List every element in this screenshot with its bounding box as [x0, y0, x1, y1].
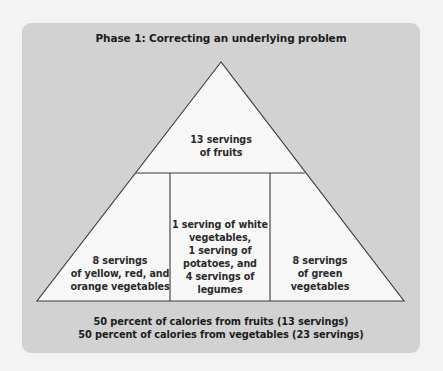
section-yellow-red-orange-vegetables: 8 servings of yellow, red, and orange ve… — [70, 254, 170, 293]
label-line: of green — [270, 267, 370, 280]
label-line: 1 serving of white — [170, 218, 270, 231]
section-green-vegetables: 8 servings of green vegetables — [270, 254, 370, 293]
label-line: vegetables — [270, 280, 370, 293]
label-line: of yellow, red, and — [70, 267, 170, 280]
label-line: 13 servings — [150, 133, 292, 146]
label-line: 1 serving of — [170, 244, 270, 257]
label-line: legumes — [170, 283, 270, 296]
label-line: vegetables, — [170, 231, 270, 244]
section-fruits: 13 servings of fruits — [150, 133, 292, 159]
label-line: potatoes, and — [170, 257, 270, 270]
label-line: 4 servings of — [170, 270, 270, 283]
summary-vegetables: 50 percent of calories from vegetables (… — [22, 328, 420, 341]
label-line: of fruits — [150, 146, 292, 159]
label-line: orange vegetables — [70, 280, 170, 293]
label-line: 8 servings — [270, 254, 370, 267]
label-line: 8 servings — [70, 254, 170, 267]
summary-fruits: 50 percent of calories from fruits (13 s… — [22, 315, 420, 328]
calorie-summary: 50 percent of calories from fruits (13 s… — [22, 315, 420, 341]
section-white-vegetables-potatoes-legumes: 1 serving of white vegetables, 1 serving… — [170, 218, 270, 296]
